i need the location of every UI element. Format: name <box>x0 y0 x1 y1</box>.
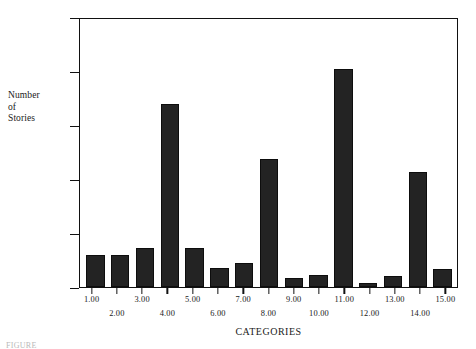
x-tick-label: 15.00 <box>427 295 463 304</box>
x-axis-ticks <box>79 288 458 294</box>
x-tick-mark <box>344 288 345 294</box>
x-tick-label: 13.00 <box>377 295 413 304</box>
x-tick-label: 3.00 <box>124 295 160 304</box>
y-tick-mark <box>70 18 79 19</box>
x-tick-mark <box>116 288 117 294</box>
bar-cell <box>331 19 356 287</box>
x-tick-label: 1.00 <box>74 295 110 304</box>
bar-cell <box>207 19 232 287</box>
y-axis-title-line-2: of <box>8 102 66 114</box>
y-axis-title-line-3: Stories <box>8 113 66 125</box>
x-tick-label: 12.00 <box>352 309 388 318</box>
x-tick-mark <box>142 288 143 294</box>
bar-cell <box>232 19 257 287</box>
x-axis-labels-row-odd: 1.003.005.007.009.0011.0013.0015.00 <box>79 295 458 307</box>
x-tick-label: 10.00 <box>301 309 337 318</box>
bar <box>161 104 179 287</box>
bar <box>235 263 253 287</box>
bar-cell <box>257 19 282 287</box>
bar <box>260 159 278 287</box>
x-tick-label: 14.00 <box>402 309 438 318</box>
bar <box>136 248 154 287</box>
x-tick-label: 8.00 <box>251 309 287 318</box>
bar-cell <box>83 19 108 287</box>
bar-cell <box>133 19 158 287</box>
x-tick-mark <box>318 288 319 294</box>
x-tick-label: 6.00 <box>200 309 236 318</box>
x-tick-mark <box>217 288 218 294</box>
bar-cell <box>281 19 306 287</box>
x-tick-label: 9.00 <box>276 295 312 304</box>
x-tick-label: 7.00 <box>225 295 261 304</box>
y-tick-mark <box>70 234 79 235</box>
plot-area <box>79 18 458 288</box>
x-tick-mark <box>369 288 370 294</box>
bar-cell <box>405 19 430 287</box>
y-axis-title-line-1: Number <box>8 90 66 102</box>
bar-cell <box>182 19 207 287</box>
x-axis-title: CATEGORIES <box>79 326 458 337</box>
x-tick-mark <box>268 288 269 294</box>
bar <box>334 69 352 287</box>
bar <box>86 255 104 287</box>
x-axis-labels-row-even: 2.004.006.008.0010.0012.0014.00 <box>79 309 458 321</box>
x-tick-mark <box>445 288 446 294</box>
x-tick-mark <box>167 288 168 294</box>
bar-cell <box>157 19 182 287</box>
bar <box>409 172 427 287</box>
figure-caption: FIGURE <box>6 341 37 349</box>
bar-cell <box>430 19 455 287</box>
bar <box>309 275 327 287</box>
bar <box>111 255 129 287</box>
y-tick-mark <box>70 288 79 289</box>
bar <box>433 269 451 287</box>
x-tick-mark <box>293 288 294 294</box>
y-tick-mark <box>70 126 79 127</box>
x-tick-mark <box>243 288 244 294</box>
figure-chart: Number of Stories 010002000300040005000 … <box>0 0 476 349</box>
bar-cell <box>306 19 331 287</box>
bar <box>384 276 402 287</box>
bar-cell <box>356 19 381 287</box>
x-tick-mark <box>192 288 193 294</box>
y-axis-title: Number of Stories <box>8 90 66 125</box>
bar <box>185 248 203 287</box>
x-tick-label: 5.00 <box>175 295 211 304</box>
x-tick-mark <box>91 288 92 294</box>
x-tick-mark <box>394 288 395 294</box>
y-tick-mark <box>70 72 79 73</box>
bar-series <box>80 19 457 287</box>
bar <box>359 283 377 287</box>
x-tick-label: 11.00 <box>326 295 362 304</box>
bar <box>210 268 228 287</box>
bar <box>285 278 303 287</box>
y-tick-mark <box>70 180 79 181</box>
x-tick-label: 4.00 <box>149 309 185 318</box>
bar-cell <box>381 19 406 287</box>
x-tick-mark <box>419 288 420 294</box>
x-tick-label: 2.00 <box>99 309 135 318</box>
bar-cell <box>108 19 133 287</box>
